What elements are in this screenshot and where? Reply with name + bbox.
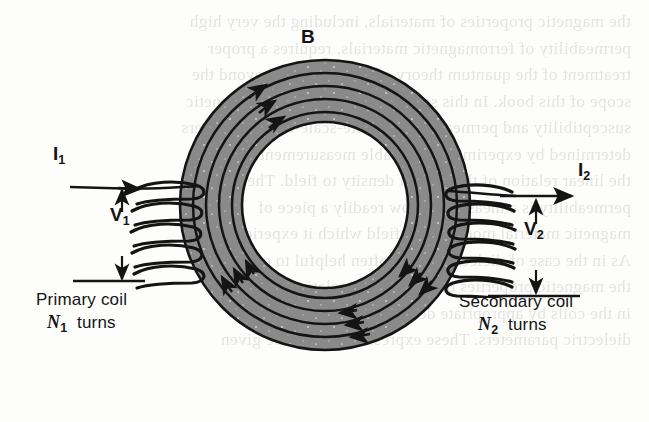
primary-turns-word: turns (77, 313, 116, 332)
primary-turns-label: N1 turns (47, 312, 116, 335)
coil-turn (134, 266, 204, 288)
secondary-current-label: I2 (578, 159, 590, 183)
secondary-coil-label: Secondary coil (459, 292, 573, 312)
secondary-voltage-label: V2 (524, 218, 544, 242)
primary-current-label: I1 (53, 143, 65, 167)
primary-voltage-label: V1 (110, 204, 130, 228)
primary-current-subscript: 1 (58, 153, 65, 167)
secondary-current-subscript: 2 (583, 169, 590, 183)
figure-container: the magnetic properties of materials, in… (0, 0, 649, 422)
secondary-turns-word: turns (508, 315, 547, 334)
primary-turns-subscript: 1 (60, 321, 67, 335)
magnetic-field-label: B (301, 26, 315, 48)
primary-voltage-subscript: 1 (123, 214, 130, 228)
secondary-voltage-subscript: 2 (537, 228, 544, 242)
transformer-diagram (0, 0, 649, 422)
primary-coil-label: Primary coil (36, 290, 127, 310)
primary-voltage-symbol: V (110, 204, 123, 225)
primary-turns-symbol: N (47, 312, 60, 332)
toroidal-core (180, 60, 470, 350)
secondary-voltage-symbol: V (524, 218, 537, 239)
secondary-turns-subscript: 2 (491, 323, 498, 337)
secondary-turns-label: N2 turns (478, 314, 547, 337)
secondary-turns-symbol: N (478, 314, 491, 334)
